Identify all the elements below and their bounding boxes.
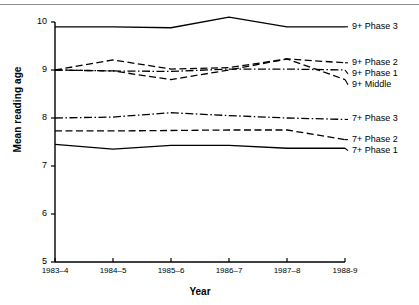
y-tick-label: 8: [29, 112, 47, 122]
x-tick-label: 1985–6: [148, 266, 194, 275]
series-line-7-phase-2: [55, 130, 345, 140]
series-line-7-phase-1: [55, 144, 345, 149]
axis-lines: [55, 22, 345, 262]
legend-leader: [345, 80, 348, 85]
legend-label-9-phase-2: 9+ Phase 2: [352, 57, 398, 67]
legend-leader-lines: [345, 27, 348, 151]
series-line-9-phase-3: [55, 17, 345, 28]
x-tick-label: 1984–5: [90, 266, 136, 275]
y-tick-label: 5: [29, 256, 47, 266]
y-axis-title: Mean reading age: [12, 55, 23, 165]
legend-label-9-phase-3: 9+ Phase 3: [352, 21, 398, 31]
x-axis-title: Year: [55, 286, 345, 297]
legend-label-7-phase-1: 7+ Phase 1: [352, 145, 398, 155]
series-line-9-phase-2: [55, 59, 345, 70]
data-series-lines: [55, 17, 345, 149]
legend-label-9-middle: 9+ Middle: [352, 79, 391, 89]
x-tick-label: 1987–8: [264, 266, 310, 275]
y-tick-label: 7: [29, 160, 47, 170]
legend-label-9-phase-1: 9+ Phase 1: [352, 68, 398, 78]
legend-leader: [345, 70, 348, 74]
series-line-7-phase-3: [55, 113, 345, 120]
y-tick-label: 9: [29, 64, 47, 74]
x-tick-label: 1983–4: [32, 266, 78, 275]
legend-label-7-phase-2: 7+ Phase 2: [352, 134, 398, 144]
figure: Mean reading age Year 1098765 1983–41984…: [0, 0, 419, 305]
x-tick-label: 1986–7: [206, 266, 252, 275]
x-tick-label: 1988-9: [322, 266, 368, 275]
legend-label-7-phase-3: 7+ Phase 3: [352, 113, 398, 123]
y-tick-label: 6: [29, 208, 47, 218]
y-tick-label: 10: [29, 16, 47, 26]
legend-leader: [345, 148, 348, 150]
